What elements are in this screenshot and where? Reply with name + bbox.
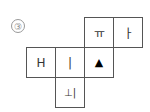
net-face-mid-2: | — [55, 47, 85, 78]
net-face-mid-1: H — [26, 47, 56, 78]
problem-number: ③ — [11, 19, 25, 33]
face-symbol: | — [68, 56, 72, 70]
face-symbol: ⊥| — [64, 87, 76, 98]
face-symbol: H — [36, 56, 45, 70]
net-face-top-1: ㅠ — [84, 17, 114, 48]
net-face-top-2: ㅏ — [113, 17, 143, 48]
face-symbol: ㅏ — [123, 24, 134, 41]
net-face-mid-3: ▲ — [84, 47, 114, 78]
face-symbol: ㅠ — [94, 24, 105, 41]
triangle-icon: ▲ — [95, 56, 103, 69]
net-face-bottom-1: ⊥| — [55, 77, 85, 108]
